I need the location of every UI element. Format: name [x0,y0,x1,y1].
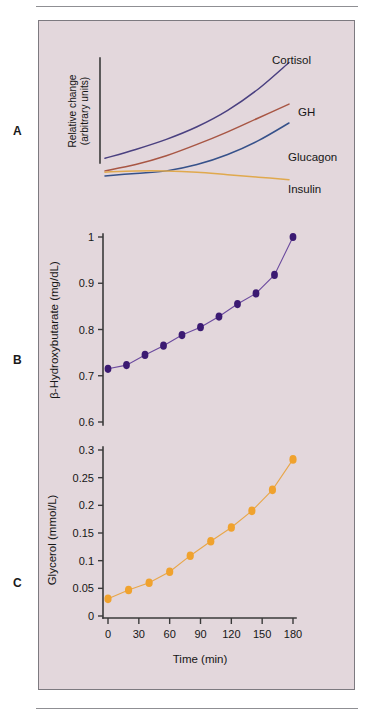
svg-text:0.15: 0.15 [73,527,94,539]
svg-text:180: 180 [284,628,302,640]
svg-text:120: 120 [222,628,240,640]
panel-b-data-line [108,237,293,369]
panel-a-curve-insulin [105,171,289,180]
svg-text:0.05: 0.05 [73,582,94,594]
panel-c-x-ticks [108,618,293,624]
panel-c-y-ticklabels: 00.050.10.150.20.250.3 [73,444,94,622]
svg-text:0.1: 0.1 [79,555,94,567]
panel-a-ylabel-line1: Relative change [67,74,78,147]
panel-a-label-glucagon: Glucagon [288,151,337,163]
svg-text:0.7: 0.7 [79,370,94,382]
svg-text:0.8: 0.8 [79,324,94,336]
panel-b-ylabel: β-Hydroxybutarate (mg/dL) [48,261,60,399]
svg-text:0.3: 0.3 [79,444,94,456]
panel-c-xlabel: Time (min) [173,653,228,665]
svg-text:0: 0 [88,610,94,622]
svg-text:150: 150 [253,628,271,640]
panel-a-curve-glucagon [105,123,289,176]
panel-a-group: Relative change (arbitrary units) Cortis… [67,54,337,195]
panel-a-curve-gh [105,104,289,171]
svg-text:90: 90 [194,628,206,640]
svg-text:60: 60 [164,628,176,640]
panel-b-group: 0.60.70.80.91 β-Hydroxybutarate (mg/dL) [48,231,296,428]
panel-c-ylabel: Glycerol (mmol/L) [46,494,58,585]
panel-a-label-insulin: Insulin [288,183,321,195]
panel-c-data-line [108,459,293,598]
svg-text:0.25: 0.25 [73,472,94,484]
svg-text:1: 1 [88,231,94,243]
panel-a-label-gh: GH [298,106,315,118]
svg-text:0.9: 0.9 [79,277,94,289]
figure-svg: Relative change (arbitrary units) Cortis… [0,0,375,722]
panel-c-group: 00.050.10.150.20.250.3 0306090120150180 … [46,444,302,665]
panel-b-y-ticklabels: 0.60.70.80.91 [79,231,94,428]
panel-a-ylabel-line2: (arbitrary units) [79,77,90,146]
panel-c-x-ticklabels: 0306090120150180 [105,628,302,640]
svg-text:0: 0 [105,628,111,640]
panel-c-data-points [104,455,296,603]
panel-b-data-points [105,233,297,373]
svg-text:30: 30 [133,628,145,640]
svg-text:0.6: 0.6 [79,416,94,428]
panel-a-label-cortisol: Cortisol [272,54,311,66]
svg-text:0.2: 0.2 [79,499,94,511]
